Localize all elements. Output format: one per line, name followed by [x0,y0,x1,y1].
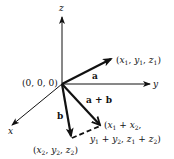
vector-a [62,59,111,84]
vector-a-tip-label: (x1, y1, z1) [116,55,161,66]
vector-b-tip-label: (x2, y2, z2) [33,145,78,156]
origin-label: (0, 0, 0) [22,78,58,88]
vector-b-label: b [57,111,63,121]
z-axis-label: z [58,3,64,13]
vector-addition-diagram: z y x (0, 0, 0) a b a + b (x1, y1, z1) (… [0,0,174,159]
vector-a-label: a [92,71,98,81]
axes [12,17,150,125]
vector-sum-tip-label-line1: (x1 + x2, [104,120,141,131]
x-axis [12,84,62,125]
y-axis-label: y [152,79,159,89]
parallelogram-dashed-edge [72,126,100,138]
x-axis-label: x [8,126,13,136]
vector-sum-label: a + b [86,95,112,105]
vector-sum-tip-label-line2: y1 + y2, z1 + z2) [89,134,161,145]
